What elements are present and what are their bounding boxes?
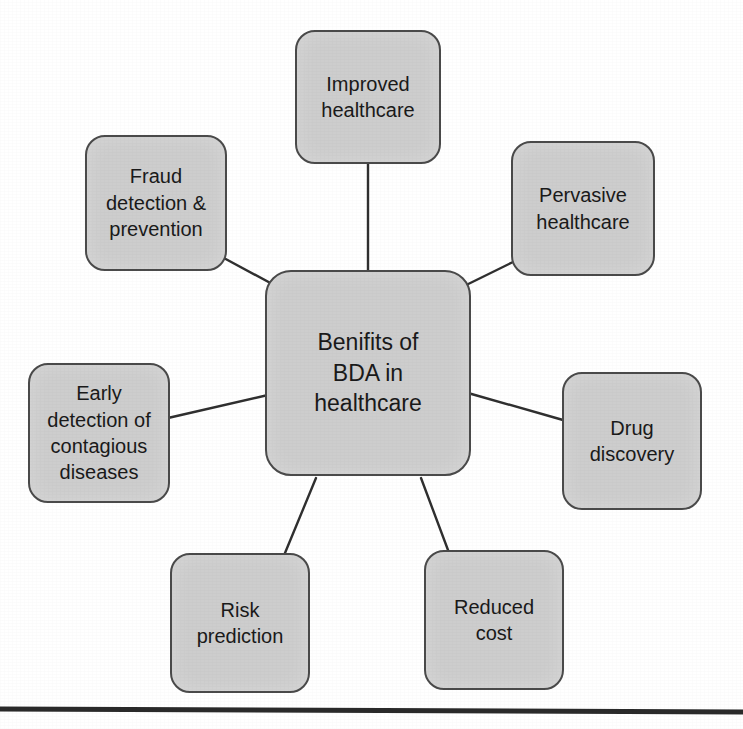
- page-bottom-rule: [0, 0, 743, 729]
- diagram-canvas: Benifits of BDA in healthcare Improved h…: [0, 0, 743, 729]
- bottom-rule-line: [0, 709, 743, 712]
